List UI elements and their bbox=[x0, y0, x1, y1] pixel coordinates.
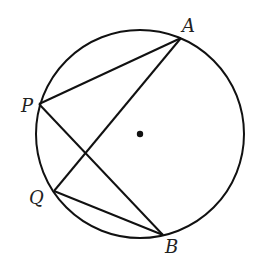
geometry-diagram: A P Q B bbox=[0, 0, 263, 262]
label-P: P bbox=[20, 95, 34, 116]
chord-QB bbox=[54, 191, 163, 235]
chord-AQ bbox=[54, 38, 181, 191]
center-point bbox=[137, 131, 143, 137]
label-A: A bbox=[180, 15, 195, 36]
chord-PA bbox=[39, 38, 181, 104]
label-B: B bbox=[164, 236, 178, 257]
label-Q: Q bbox=[29, 187, 44, 208]
chord-PB bbox=[39, 104, 163, 235]
